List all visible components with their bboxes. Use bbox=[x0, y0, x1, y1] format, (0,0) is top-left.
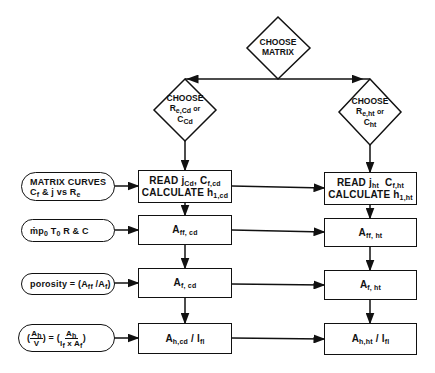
process-text: READ jCd, Cf,cd bbox=[149, 175, 220, 187]
process-text: CALCULATE h1,ht bbox=[328, 189, 413, 201]
decision-text: CHOOSE bbox=[253, 37, 303, 47]
input-flow-conditions: ṁp0 T0 R & C bbox=[21, 219, 115, 242]
decision-text: MATRIX bbox=[253, 47, 303, 57]
process-text: Aff, ht bbox=[359, 227, 383, 239]
process-text: Aff, cd bbox=[172, 224, 197, 236]
process-af-cd: Af, cd bbox=[138, 268, 232, 298]
process-text: Af, cd bbox=[174, 277, 197, 289]
decision-text: CHOOSE bbox=[160, 93, 210, 103]
choose-matrix-decision: CHOOSE MATRIX bbox=[253, 37, 303, 57]
input-text: ( AhV ) = ( Ahlf x Af ) bbox=[27, 329, 86, 348]
decision-text: Re,Cd or bbox=[160, 103, 210, 114]
input-area-density: ( AhV ) = ( Ahlf x Af ) bbox=[18, 324, 115, 352]
input-matrix-curves: MATRIX CURVES Cf & j vs Re bbox=[21, 172, 115, 201]
process-text: Af, ht bbox=[360, 279, 381, 291]
input-porosity: porosity = (Aff /Af) bbox=[21, 273, 115, 295]
process-aff-cd: Aff, cd bbox=[138, 215, 232, 245]
input-text: Cf & j vs Re bbox=[30, 187, 81, 197]
input-text: porosity = (Aff /Af) bbox=[30, 279, 111, 289]
input-text: MATRIX CURVES bbox=[30, 177, 106, 187]
process-text: CALCULATE h1,cd bbox=[142, 187, 228, 199]
choose-re-cd-decision: CHOOSE Re,Cd or CCd bbox=[160, 93, 210, 124]
decision-text: CHOOSE bbox=[345, 96, 395, 106]
decision-text: Cht bbox=[345, 117, 395, 127]
process-af-ht: Af, ht bbox=[324, 270, 417, 300]
decision-text: CCd bbox=[160, 114, 210, 124]
process-text: Ah,cd / lfl bbox=[165, 333, 204, 345]
process-read-cd: READ jCd, Cf,cd CALCULATE h1,cd bbox=[138, 170, 232, 203]
process-ah-cd: Ah,cd / lfl bbox=[138, 323, 232, 354]
process-text: Ah,ht / lfl bbox=[352, 333, 390, 345]
choose-re-ht-decision: CHOOSE Re,ht or Cht bbox=[345, 96, 395, 127]
input-text: ṁp0 T0 R & C bbox=[30, 226, 89, 236]
process-aff-ht: Aff, ht bbox=[324, 218, 417, 247]
decision-text: Re,ht or bbox=[345, 106, 395, 117]
process-text: READ jht Cf,ht bbox=[337, 177, 404, 189]
process-ah-ht: Ah,ht / lfl bbox=[324, 323, 417, 355]
process-read-ht: READ jht Cf,ht CALCULATE h1,ht bbox=[324, 172, 417, 205]
